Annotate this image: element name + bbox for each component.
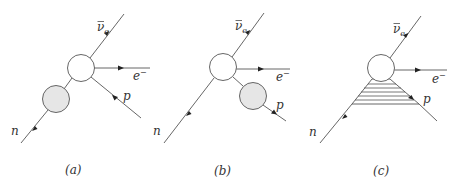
- proton-label: p: [423, 92, 431, 106]
- electron-label: e−: [133, 68, 147, 83]
- caption-c: (c): [373, 164, 389, 178]
- neutron-label: n: [309, 125, 317, 139]
- neutron-line: [320, 104, 352, 143]
- panel-b: νe e− p n (b): [153, 13, 290, 178]
- panel-c: νe e− p n (c): [309, 16, 447, 178]
- neutron-line: [164, 78, 214, 143]
- antineutrino-label: νe: [235, 19, 247, 35]
- panel-a: νe e− p n (a): [11, 14, 150, 177]
- electron-label: e−: [276, 69, 290, 84]
- neutron-line: [21, 110, 48, 143]
- electron-label: e−: [432, 71, 446, 86]
- vertex-blob: [68, 55, 95, 82]
- vertex-blob: [210, 54, 237, 81]
- caption-a: (a): [65, 163, 82, 177]
- proton-blob: [240, 83, 267, 110]
- internal-line: [64, 78, 72, 89]
- arrow-icon: [112, 95, 118, 101]
- caption-b: (b): [214, 164, 231, 178]
- arrow-icon: [258, 67, 264, 72]
- antineutrino-label: νe: [393, 22, 405, 38]
- neutron-label: n: [11, 124, 19, 138]
- feynman-diagrams: νe e− p n (a) νe e− p n (b): [0, 0, 461, 189]
- neutron-label: n: [153, 124, 161, 138]
- internal-line: [233, 77, 243, 86]
- arrow-icon: [415, 68, 421, 73]
- proton-line: [419, 104, 437, 121]
- proton-label: p: [276, 98, 284, 112]
- antineutrino-label: νe: [97, 20, 109, 36]
- arrow-icon: [118, 66, 124, 71]
- neutron-blob: [43, 86, 70, 113]
- proton-label: p: [123, 89, 131, 103]
- vertex-blob: [368, 55, 395, 82]
